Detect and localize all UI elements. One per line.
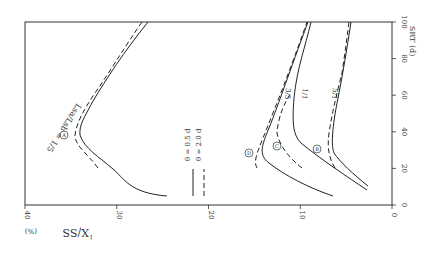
y-tick-30: 30 (115, 211, 123, 220)
plot-frame (25, 22, 392, 205)
curve-d-solid (262, 22, 333, 196)
ratio-label-b: 5/1 (330, 88, 339, 100)
svg-text:X/SS: X/SS (63, 226, 89, 239)
chart-svg: 0 20 40 60 80 100 SRT (d) 0 10 20 30 40 (0, 0, 429, 253)
y-tick-40: 40 (23, 211, 31, 220)
tag-c: C (275, 143, 279, 149)
y-tick-0: 0 (390, 213, 398, 217)
x-tick-40: 40 (400, 127, 408, 136)
curve-a-dashed (75, 22, 142, 168)
series-a: A Lsa/Lsb = 1/5 (45, 22, 167, 196)
svg-text:(%): (%) (25, 227, 37, 235)
curve-a-solid (80, 22, 167, 196)
x-tick-0: 0 (400, 203, 408, 207)
legend-dashed-label: θ = 2.0 d (195, 128, 203, 161)
curve-c-dashed (277, 95, 302, 168)
tag-d: D (247, 150, 251, 156)
svg-text:1: 1 (89, 234, 93, 241)
legend: θ = 0.5 d θ = 2.0 d (184, 128, 204, 196)
y-axis-label: (%) X/SS 1 (25, 226, 93, 241)
x-tick-100: 100 (400, 15, 408, 28)
legend-solid-label: θ = 0.5 d (184, 128, 192, 161)
series-b: B 5/1 (313, 22, 368, 186)
x-axis-label: SRT (d) (408, 26, 417, 57)
curve-c-solid (293, 22, 367, 190)
tag-b: B (315, 146, 319, 152)
x-tick-60: 60 (400, 91, 408, 100)
y-tick-20: 20 (207, 211, 215, 220)
y-tick-10: 10 (298, 211, 306, 220)
series-c: C 1/1 (273, 22, 367, 190)
ratio-label-c: 1/1 (300, 88, 309, 100)
x-tick-80: 80 (400, 54, 408, 63)
ratio-label-a: Lsa/Lsb = 1/5 (45, 102, 83, 154)
x-axis: 0 20 40 60 80 100 SRT (d) (392, 15, 417, 207)
chart-figure: 0 20 40 60 80 100 SRT (d) 0 10 20 30 40 (0, 0, 429, 253)
curve-b-solid (332, 22, 368, 186)
x-tick-20: 20 (400, 164, 408, 173)
series-d: D 3/5 (245, 22, 333, 196)
y-axis: 0 10 20 30 40 (%) X/SS 1 (23, 205, 398, 241)
